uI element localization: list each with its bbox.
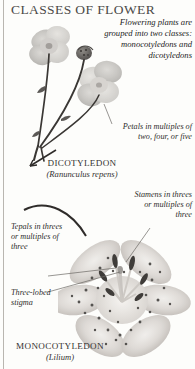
dicotyledon-scientific-name: (Ranunculus repens) bbox=[34, 169, 130, 179]
caption-stamens: Stamens in threes or multiples of three bbox=[134, 190, 192, 221]
monocotyledon-scientific-name: (Lilium) bbox=[6, 352, 114, 362]
monocotyledon-class-name: MONOCOTYLEDON bbox=[6, 341, 114, 352]
page-title: CLASSES OF FLOWER bbox=[11, 2, 155, 18]
specimen-label-dicotyledon: DICOTYLEDON (Ranunculus repens) bbox=[34, 158, 130, 179]
specimen-label-monocotyledon: MONOCOTYLEDON (Lilium) bbox=[6, 341, 114, 362]
caption-petals: Petals in multiples of two, four, or fiv… bbox=[114, 122, 192, 142]
caption-stigma: Three-lobed stigma bbox=[11, 288, 53, 308]
intro-text: Flowering plants are grouped into two cl… bbox=[92, 17, 192, 61]
illustration-page: CLASSES OF FLOWER Flowering plants are g… bbox=[0, 0, 195, 369]
caption-tepals: Tepals in threes or multiples of three bbox=[11, 222, 65, 253]
dicotyledon-class-name: DICOTYLEDON bbox=[34, 158, 130, 169]
